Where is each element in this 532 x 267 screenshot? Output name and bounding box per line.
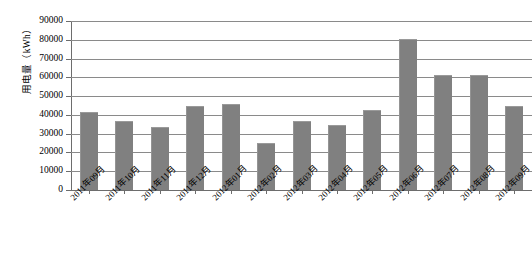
x-tick-mark [124, 190, 125, 194]
y-tick-label: 80000 [0, 35, 63, 45]
y-tick-label: 60000 [0, 72, 63, 82]
y-tick-label: 20000 [0, 147, 63, 157]
x-tick-mark [443, 190, 444, 194]
x-tick-mark [302, 190, 303, 194]
gridline [71, 115, 532, 116]
y-tick-label: 50000 [0, 91, 63, 101]
x-tick-mark [479, 190, 480, 194]
plot-area [71, 21, 532, 190]
x-tick-mark [372, 190, 373, 194]
y-tick-label: 70000 [0, 54, 63, 64]
x-tick-mark [195, 190, 196, 194]
gridline [71, 40, 532, 41]
gridline [71, 59, 532, 60]
x-tick-mark [89, 190, 90, 194]
x-tick-mark [160, 190, 161, 194]
y-tick-label: 40000 [0, 110, 63, 120]
gridline [71, 96, 532, 97]
gridline [71, 21, 532, 22]
x-tick-mark [231, 190, 232, 194]
y-tick-label: 0 [0, 185, 63, 195]
y-tick-label: 10000 [0, 166, 63, 176]
gridline [71, 77, 532, 78]
x-tick-mark [337, 190, 338, 194]
y-tick-label: 90000 [0, 16, 63, 26]
bar-chart: 用电量（kWh） 0100002000030000400005000060000… [0, 0, 532, 267]
x-tick-mark [408, 190, 409, 194]
x-tick-mark [266, 190, 267, 194]
y-tick-label: 30000 [0, 129, 63, 139]
x-tick-mark [514, 190, 515, 194]
